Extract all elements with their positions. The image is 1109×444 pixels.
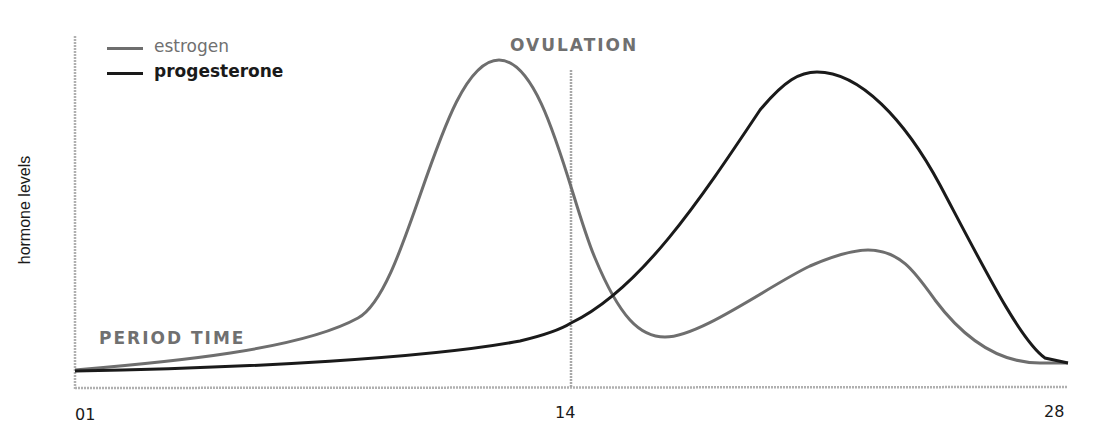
x-tick-14: 14 [555, 403, 575, 422]
legend-estrogen-label: estrogen [154, 36, 229, 56]
x-axis-line [75, 387, 1068, 388]
x-tick-01: 01 [75, 405, 95, 424]
x-tick-28: 28 [1044, 402, 1064, 421]
y-axis-label: hormone levels [16, 156, 34, 265]
legend-estrogen-swatch [107, 47, 143, 50]
ovulation-label: OVULATION [510, 35, 638, 55]
legend-progesterone-label: progesterone [154, 61, 283, 81]
legend-progesterone-swatch [107, 72, 143, 75]
period-time-label: PERIOD TIME [99, 328, 245, 348]
y-axis-label-wrap: hormone levels [12, 0, 38, 444]
